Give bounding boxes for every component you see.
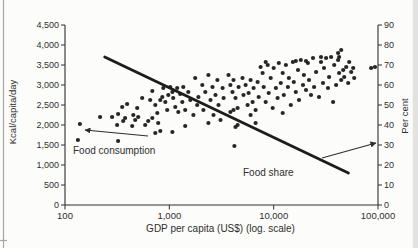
data-point	[314, 70, 318, 74]
data-point	[281, 111, 285, 115]
data-point	[231, 78, 235, 82]
data-point	[279, 81, 283, 85]
data-point	[277, 61, 281, 65]
data-point	[158, 129, 162, 133]
data-point	[231, 108, 235, 112]
data-point	[115, 123, 119, 127]
data-point	[322, 66, 326, 70]
data-point	[193, 76, 197, 80]
data-point	[342, 75, 346, 79]
data-point	[246, 103, 250, 107]
data-point	[352, 76, 356, 80]
data-point	[222, 96, 226, 100]
data-point	[309, 93, 313, 97]
y-right-tick-label: 30	[384, 140, 394, 150]
data-point	[130, 124, 134, 128]
data-point	[160, 95, 164, 99]
data-point	[302, 73, 306, 77]
data-point	[176, 110, 180, 114]
data-point	[203, 90, 207, 94]
data-point	[110, 115, 114, 119]
data-point	[304, 88, 308, 92]
food-consumption-share-chart: 05001,0001,5002,0002,5003,0003,5004,0004…	[0, 0, 418, 248]
data-point	[240, 76, 244, 80]
data-point	[289, 103, 293, 107]
data-point	[170, 130, 174, 134]
data-point	[78, 122, 82, 126]
data-point	[171, 96, 175, 100]
data-point	[346, 81, 350, 85]
data-point	[321, 81, 325, 85]
data-point	[319, 55, 323, 59]
data-point	[284, 63, 288, 67]
data-point	[116, 112, 120, 116]
y-right-tick-label: 40	[384, 120, 394, 130]
data-point	[294, 59, 298, 63]
data-point	[125, 102, 129, 106]
data-point	[201, 108, 205, 112]
data-point	[274, 86, 278, 90]
data-point	[123, 116, 127, 120]
y-left-tick-label: 2,000	[36, 120, 59, 130]
data-point	[292, 80, 296, 84]
data-point	[294, 90, 298, 94]
data-point	[312, 85, 316, 89]
food-consumption-label-arrow	[85, 130, 148, 136]
data-point	[165, 108, 169, 112]
data-point	[341, 68, 345, 72]
data-point	[196, 95, 200, 99]
data-point	[146, 119, 150, 123]
data-point	[271, 106, 275, 110]
data-point	[286, 85, 290, 89]
data-point	[232, 144, 236, 148]
x-tick-label: 1,000	[157, 210, 181, 221]
data-point	[181, 85, 185, 89]
food-consumption-label: Food consumption	[73, 145, 155, 156]
data-point	[150, 116, 154, 120]
data-point	[131, 113, 135, 117]
data-point	[155, 111, 159, 115]
data-point	[143, 123, 147, 127]
data-point	[297, 98, 301, 102]
data-point	[266, 63, 270, 67]
y-left-tick-label: 1,500	[36, 140, 59, 150]
data-point	[249, 113, 253, 117]
data-point	[116, 139, 120, 143]
food-share-label-arrow	[322, 143, 376, 158]
data-point	[183, 124, 187, 128]
data-point	[254, 121, 258, 125]
data-point	[282, 93, 286, 97]
data-point	[373, 65, 377, 69]
data-point	[236, 106, 240, 110]
data-point	[247, 91, 251, 95]
data-point	[210, 85, 214, 89]
data-point	[213, 93, 217, 97]
data-point	[306, 61, 310, 65]
data-point	[257, 95, 261, 99]
data-point	[269, 76, 273, 80]
data-point	[228, 83, 232, 87]
data-point	[344, 65, 348, 69]
food-share-label: Food share	[243, 167, 294, 178]
data-point	[211, 113, 215, 117]
data-point	[267, 91, 271, 95]
data-point	[241, 93, 245, 97]
data-point	[252, 86, 256, 90]
y-left-tick-label: 500	[44, 180, 59, 190]
data-point	[135, 106, 139, 110]
data-point	[264, 100, 268, 104]
data-point	[254, 108, 258, 112]
data-point	[244, 83, 248, 87]
data-point	[216, 103, 220, 107]
y-left-tick-label: 2,500	[36, 100, 59, 110]
data-point	[327, 75, 331, 79]
data-point	[329, 55, 333, 59]
data-point	[156, 121, 160, 125]
data-point	[226, 73, 230, 77]
y-right-tick-label: 10	[384, 180, 394, 190]
data-point	[251, 100, 255, 104]
data-point	[276, 96, 280, 100]
data-point	[307, 78, 311, 82]
data-point	[183, 108, 187, 112]
data-point	[299, 58, 303, 62]
